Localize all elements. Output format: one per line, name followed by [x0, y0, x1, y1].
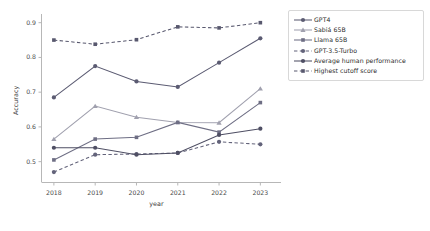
series-1 [52, 36, 263, 99]
legend-item-5[interactable]: Average human performance [292, 56, 419, 66]
legend-item-6[interactable]: Highest cutoff score [292, 66, 419, 76]
y-tick-label: 0.5 [18, 158, 36, 165]
x-tick-label: 2023 [248, 189, 272, 196]
legend-item-1[interactable]: GPT4 [292, 15, 419, 25]
legend-item-label: GPT4 [314, 15, 330, 25]
legend-item-label: Sabiá 65B [314, 25, 346, 35]
legend-marker-icon [292, 46, 314, 56]
series-5 [52, 127, 263, 157]
series-3 [52, 101, 262, 162]
legend-item-label: Llama 65B [314, 35, 347, 45]
legend-marker-icon [292, 15, 314, 25]
legend-item-label: Highest cutoff score [314, 66, 377, 76]
x-tick-label: 2022 [207, 189, 231, 196]
legend-item-2[interactable]: Sabiá 65B [292, 25, 419, 35]
y-tick-label: 0.6 [18, 123, 36, 130]
legend-item-label: GPT-3.5-Turbo [314, 46, 357, 56]
legend-marker-icon [292, 35, 314, 45]
chart-figure: Accuracy year GPT4Sabiá 65BLlama 65BGPT-… [0, 0, 430, 231]
y-tick-label: 0.7 [18, 88, 36, 95]
legend-marker-icon [292, 66, 314, 76]
legend-item-3[interactable]: Llama 65B [292, 35, 419, 45]
x-tick-label: 2021 [166, 189, 190, 196]
chart-legend: GPT4Sabiá 65BLlama 65BGPT-3.5-TurboAvera… [288, 10, 424, 81]
x-tick-label: 2019 [83, 189, 107, 196]
y-tick-label: 0.9 [18, 19, 36, 26]
legend-item-4[interactable]: GPT-3.5-Turbo [292, 46, 419, 56]
x-axis-title: year [149, 200, 163, 208]
legend-item-label: Average human performance [314, 56, 406, 66]
legend-marker-icon [292, 25, 314, 35]
series-6 [52, 21, 262, 46]
x-tick-label: 2018 [42, 189, 66, 196]
data-series-layer [51, 21, 263, 174]
y-tick-label: 0.8 [18, 53, 36, 60]
legend-marker-icon [292, 56, 314, 66]
axes-spines [42, 14, 282, 183]
x-tick-label: 2020 [124, 189, 148, 196]
